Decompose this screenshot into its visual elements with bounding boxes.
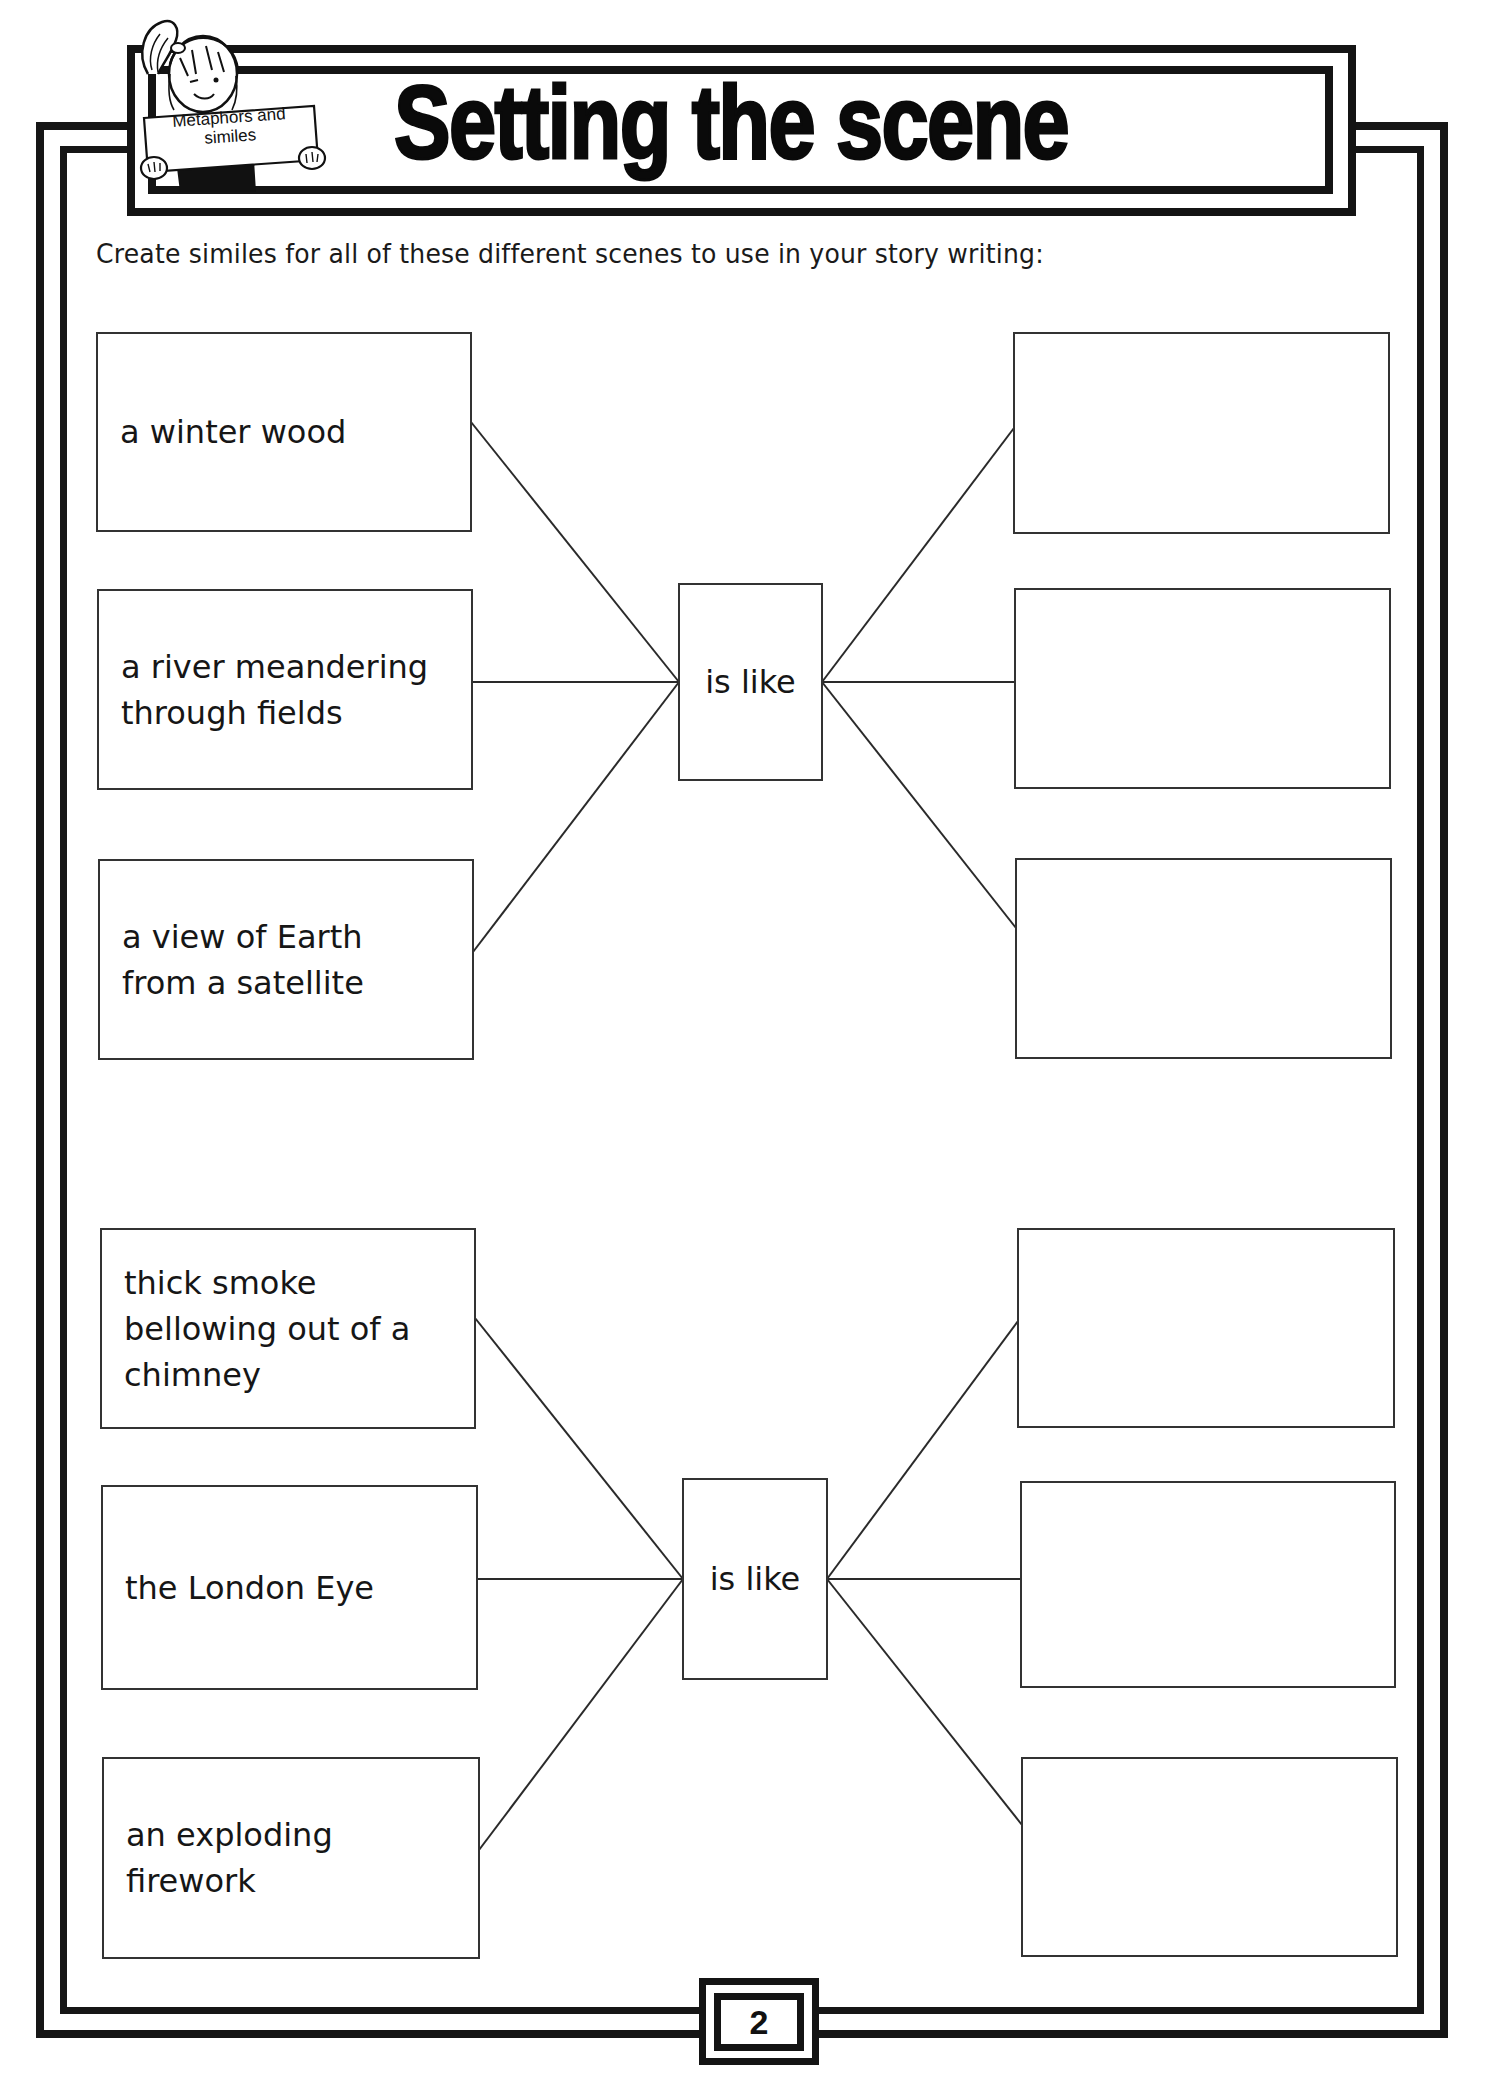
scene-label: a view of Earth from a satellite bbox=[122, 914, 364, 1006]
connector-label: is like bbox=[710, 1559, 801, 1599]
scene-label: an exploding firework bbox=[126, 1812, 333, 1904]
simile-answer-box[interactable] bbox=[1021, 1757, 1398, 1957]
page-number: 2 bbox=[714, 1993, 804, 2051]
is-like-box: is like bbox=[678, 583, 823, 781]
simile-answer-box[interactable] bbox=[1014, 588, 1391, 789]
scene-box: a view of Earth from a satellite bbox=[98, 859, 474, 1060]
is-like-box: is like bbox=[682, 1478, 828, 1680]
simile-answer-box[interactable] bbox=[1015, 858, 1392, 1059]
simile-answer-box[interactable] bbox=[1017, 1228, 1395, 1428]
scene-label: thick smoke bellowing out of a chimney bbox=[124, 1260, 410, 1398]
simile-answer-box[interactable] bbox=[1020, 1481, 1396, 1688]
scene-box: an exploding firework bbox=[102, 1757, 480, 1959]
scene-label: a river meandering through fields bbox=[121, 644, 428, 736]
scene-label: the London Eye bbox=[125, 1565, 374, 1611]
scene-box: the London Eye bbox=[101, 1485, 478, 1690]
scene-box: thick smoke bellowing out of a chimney bbox=[100, 1228, 476, 1429]
connector-label: is like bbox=[705, 662, 796, 702]
scene-label: a winter wood bbox=[120, 409, 346, 455]
scene-box: a winter wood bbox=[96, 332, 472, 532]
scene-box: a river meandering through fields bbox=[97, 589, 473, 790]
simile-answer-box[interactable] bbox=[1013, 332, 1390, 534]
